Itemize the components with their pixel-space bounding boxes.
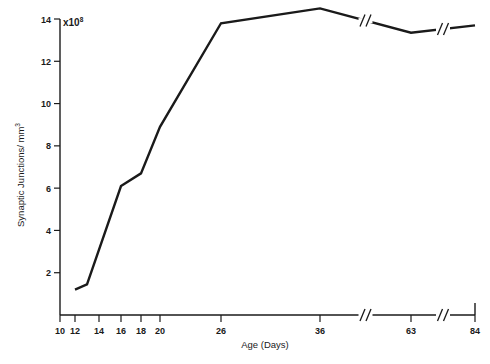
- y-tick-label: 2: [46, 268, 51, 278]
- x-tick-label: 84: [470, 326, 480, 336]
- x-tick-label: 20: [155, 326, 165, 336]
- x-tick-label-group: 10121416182026366384: [55, 326, 480, 336]
- x-tick-label: 36: [315, 326, 325, 336]
- chart-figure: 2468101214 10121416182026366384 Age (Day…: [0, 0, 490, 364]
- x-tick-label: 18: [136, 326, 146, 336]
- y-tick-label: 4: [46, 226, 51, 236]
- x-tick-label: 63: [406, 326, 416, 336]
- x-tick-label: 16: [116, 326, 126, 336]
- x-tick-label: 12: [70, 326, 80, 336]
- y-tick-label: 8: [46, 141, 51, 151]
- y-tick-label: 6: [46, 184, 51, 194]
- chart-canvas: 2468101214 10121416182026366384 Age (Day…: [0, 0, 490, 364]
- y-tick-group: [54, 19, 60, 273]
- x-tick-label: 26: [216, 326, 226, 336]
- y-tick-label-group: 2468101214: [41, 15, 51, 279]
- axis-break-group: [359, 15, 451, 321]
- y-axis-title: Synaptic Junctions/ mm3: [14, 123, 26, 227]
- x-tick-label: 14: [94, 326, 104, 336]
- data-series-line: [75, 8, 475, 289]
- y-tick-label: 10: [41, 99, 51, 109]
- y-tick-label: 14: [41, 15, 51, 25]
- x-axis-title: Age (Days): [241, 339, 289, 350]
- line-chart-svg: 2468101214 10121416182026366384 Age (Day…: [0, 0, 490, 364]
- scale-multiplier-note: x108: [63, 16, 84, 28]
- x-tick-label: 10: [55, 326, 65, 336]
- y-tick-label: 12: [41, 57, 51, 67]
- x-tick-group: [60, 315, 475, 322]
